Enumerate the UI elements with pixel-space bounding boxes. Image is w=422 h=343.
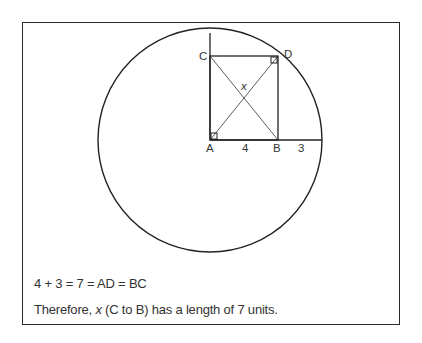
label-a: A [206, 142, 214, 154]
label-x: x [240, 80, 248, 92]
label-extension-length: 3 [298, 142, 304, 154]
label-ab-length: 4 [242, 142, 249, 154]
equation-line: 4 + 3 = 7 = AD = BC [34, 276, 147, 291]
conclusion-suffix: (C to B) has a length of 7 units. [102, 302, 278, 317]
label-b: B [273, 142, 281, 154]
label-d: D [284, 48, 292, 60]
label-c: C [199, 50, 207, 62]
conclusion-line: Therefore, x (C to B) has a length of 7 … [34, 302, 278, 317]
circle-rectangle-diagram: C D A B 4 3 x [0, 0, 422, 343]
conclusion-prefix: Therefore, [34, 302, 95, 317]
